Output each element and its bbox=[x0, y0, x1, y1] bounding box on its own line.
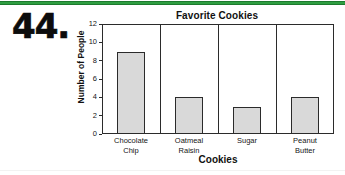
category-divider bbox=[276, 24, 277, 134]
bar-slot bbox=[102, 24, 160, 134]
bar bbox=[117, 52, 145, 135]
x-axis-tick-label: ChocolateChip bbox=[102, 136, 160, 155]
category-divider bbox=[160, 24, 161, 134]
x-axis-tick-label: PeanutButter bbox=[276, 136, 334, 155]
x-axis-tick-label: OatmealRaisin bbox=[160, 136, 218, 155]
y-axis-tick-value: 12 bbox=[89, 19, 97, 28]
bar-slot bbox=[276, 24, 334, 134]
top-divider-rule bbox=[0, 1, 345, 5]
y-axis-ticks: 121086420 bbox=[71, 24, 102, 134]
bar-slot bbox=[160, 24, 218, 134]
question-number: 44. bbox=[12, 9, 69, 43]
bar-chart-figure: Favorite Cookies Number of People 121086… bbox=[72, 8, 340, 168]
y-axis-tick-value: 8 bbox=[93, 56, 97, 65]
bar bbox=[175, 97, 203, 134]
chart-title: Favorite Cookies bbox=[100, 10, 334, 21]
y-axis-tick-value: 10 bbox=[89, 37, 97, 46]
worksheet-page: 44. Favorite Cookies Number of People 12… bbox=[0, 0, 345, 175]
bar bbox=[233, 107, 261, 135]
x-axis-title: Cookies bbox=[102, 154, 334, 165]
x-axis-tick-label: Sugar bbox=[218, 136, 276, 146]
bar bbox=[291, 97, 319, 134]
y-axis-tick-value: 4 bbox=[93, 92, 97, 101]
bar-series bbox=[102, 24, 334, 134]
y-axis-tick-value: 0 bbox=[93, 129, 97, 138]
bottom-divider-rule bbox=[0, 170, 345, 171]
y-axis-tick-value: 6 bbox=[93, 74, 97, 83]
bar-slot bbox=[218, 24, 276, 134]
y-axis-tick-value: 2 bbox=[93, 111, 97, 120]
category-divider bbox=[218, 24, 219, 134]
